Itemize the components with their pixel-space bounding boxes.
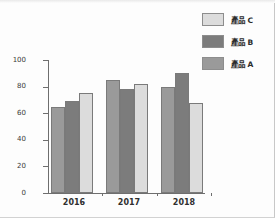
x-tick-mark <box>102 193 103 196</box>
y-tick-mark <box>43 87 48 88</box>
bar <box>51 107 65 193</box>
bar <box>175 73 189 193</box>
legend-label-product-b: 產品 B <box>231 36 253 47</box>
x-tick-mark <box>211 193 212 196</box>
y-tick-label: 100 <box>13 56 26 64</box>
y-tick: 60 <box>28 113 48 114</box>
bar-group <box>161 60 207 193</box>
legend-item-product-b: 產品 B <box>202 34 274 49</box>
bar <box>65 101 79 193</box>
bar <box>79 93 93 193</box>
y-tick: 80 <box>28 87 48 88</box>
legend-item-product-a: 產品 A <box>202 56 274 71</box>
y-tick: 100 <box>28 60 48 61</box>
x-tick-label: 2017 <box>106 198 152 207</box>
y-tick-mark <box>43 166 48 167</box>
y-tick-label: 60 <box>17 109 26 117</box>
bar <box>106 80 120 193</box>
bar <box>120 89 134 193</box>
y-tick: 20 <box>28 166 48 167</box>
legend-swatch-product-c <box>202 13 224 26</box>
y-tick-label: 40 <box>17 135 26 143</box>
bar <box>161 87 175 193</box>
y-tick-label: 20 <box>17 162 26 170</box>
y-tick: 40 <box>28 140 48 141</box>
chart-page: 產品 C 產品 B 產品 A 020406080100 201620172018 <box>0 0 275 218</box>
legend-item-product-c: 產品 C <box>202 12 274 27</box>
x-axis-line <box>48 193 205 194</box>
legend-label-product-c: 產品 C <box>231 14 253 25</box>
legend-swatch-product-b <box>202 35 224 48</box>
bar-group <box>51 60 97 193</box>
y-tick-mark <box>43 60 48 61</box>
y-tick-mark <box>43 140 48 141</box>
bar-groups <box>49 60 205 193</box>
scan-edge <box>0 0 275 3</box>
bar-group <box>106 60 152 193</box>
x-tick-label: 2018 <box>161 198 207 207</box>
bar <box>134 84 148 193</box>
x-tick-label: 2016 <box>51 198 97 207</box>
y-tick-mark <box>43 113 48 114</box>
x-tick-mark <box>157 193 158 196</box>
chart-legend: 產品 C 產品 B 產品 A <box>202 12 274 78</box>
bar <box>189 103 203 193</box>
y-tick-label: 80 <box>17 82 26 90</box>
y-tick: 0 <box>28 193 48 194</box>
y-tick-mark <box>43 193 48 194</box>
legend-label-product-a: 產品 A <box>231 58 253 69</box>
y-tick-label: 0 <box>22 189 26 197</box>
plot-area: 020406080100 201620172018 <box>28 56 206 196</box>
